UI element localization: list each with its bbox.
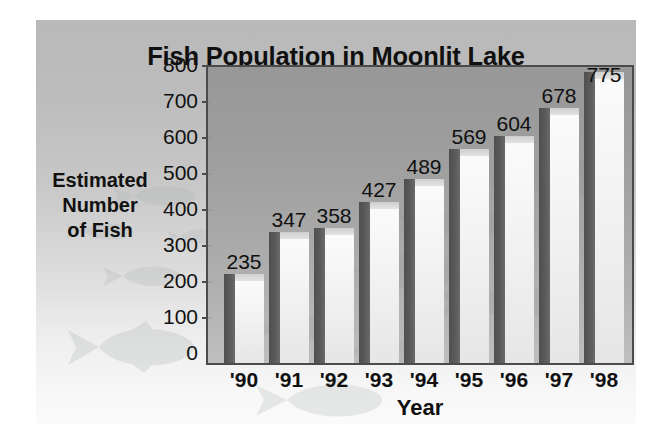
bar-front-face	[460, 156, 489, 363]
bar-1991[interactable]	[269, 232, 309, 363]
bar-front-face	[505, 143, 534, 363]
bar-front-face	[280, 239, 309, 363]
bar-value-label-1996: 604	[487, 112, 541, 136]
bar-1995[interactable]	[449, 149, 489, 363]
bar-side-face	[449, 149, 460, 363]
x-tick-label-1997: '97	[537, 368, 581, 392]
bar-value-label-1992: 358	[307, 204, 361, 228]
bar-top-face	[505, 136, 534, 143]
x-tick-label-1990: '90	[222, 368, 266, 392]
bar-1993[interactable]	[359, 202, 399, 363]
bar-top-face	[235, 274, 264, 281]
bar-top-face	[370, 202, 399, 209]
y-tick-label-100: 100	[134, 306, 198, 327]
x-tick-label-1996: '96	[492, 368, 536, 392]
y-tick-label-500: 500	[134, 162, 198, 183]
bar-1992[interactable]	[314, 228, 354, 363]
bar-1997[interactable]	[539, 108, 579, 363]
bar-front-face	[550, 115, 579, 363]
bar-value-label-1993: 427	[352, 178, 406, 202]
y-tick-label-200: 200	[134, 270, 198, 291]
plot-area: 235 347 358 427 489 569 604 678 775	[206, 65, 634, 365]
y-tick-label-800: 800	[134, 54, 198, 75]
bar-side-face	[224, 274, 235, 363]
bar-side-face	[314, 228, 325, 363]
x-tick-label-1995: '95	[447, 368, 491, 392]
bar-side-face	[584, 72, 595, 363]
bar-front-face	[595, 79, 624, 363]
bar-1990[interactable]	[224, 274, 264, 363]
bar-side-face	[539, 108, 550, 363]
bar-front-face	[370, 209, 399, 363]
x-tick-label-1992: '92	[312, 368, 356, 392]
bar-top-face	[460, 149, 489, 156]
bar-value-label-1998: 775	[577, 65, 631, 87]
y-tick-label-600: 600	[134, 126, 198, 147]
bar-top-face	[325, 228, 354, 235]
bar-1994[interactable]	[404, 179, 444, 363]
x-tick-label-1991: '91	[267, 368, 311, 392]
x-tick-label-1998: '98	[582, 368, 626, 392]
bar-front-face	[235, 281, 264, 363]
bar-value-label-1990: 235	[217, 250, 271, 274]
bar-top-face	[415, 179, 444, 186]
bar-value-label-1997: 678	[532, 84, 586, 108]
bar-1996[interactable]	[494, 136, 534, 363]
bar-top-face	[280, 232, 309, 239]
chart-panel: Fish Population in Moonlit Lake Estimate…	[36, 20, 636, 424]
y-tick-label-700: 700	[134, 90, 198, 111]
y-tick-label-400: 400	[134, 198, 198, 219]
bar-top-face	[550, 108, 579, 115]
bar-side-face	[404, 179, 415, 363]
y-axis-tick-labels: 800 700 600 500 400 300 200 100 0	[36, 20, 206, 365]
x-tick-label-1994: '94	[402, 368, 446, 392]
bar-value-label-1994: 489	[397, 155, 451, 179]
bar-front-face	[415, 186, 444, 363]
y-tick-label-300: 300	[134, 234, 198, 255]
y-tick-label-0: 0	[134, 342, 198, 363]
x-tick-label-1993: '93	[357, 368, 401, 392]
bar-1998[interactable]	[584, 72, 624, 363]
chart-page: Fish Population in Moonlit Lake Estimate…	[0, 0, 652, 442]
x-axis-title: Year	[206, 395, 634, 421]
bar-side-face	[494, 136, 505, 363]
bar-front-face	[325, 235, 354, 363]
